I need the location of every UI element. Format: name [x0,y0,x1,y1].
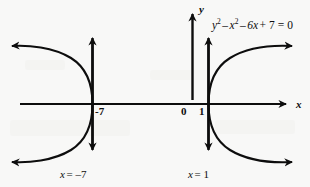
equation-annotation: y2–x2–6x+7=0 [212,20,295,32]
x-tick-label-1: 1 [199,106,205,117]
right-line-label: x=1 [188,169,211,180]
left-line-label-lhs: x [60,168,65,180]
equation-minus-1: – [222,19,228,31]
equation-plus: + [260,19,267,31]
x-tick-label-minus-7: -7 [95,106,104,117]
left-line-label-rhs: –7 [76,168,87,180]
equation-y-exponent: 2 [217,17,221,26]
hyperbola-figure: x y 0 -7 1 y2–x2–6x+7=0 x=–7 x=1 [0,0,310,187]
equation-constant: 7 [269,19,275,31]
right-line-label-rhs: 1 [204,168,210,180]
right-line-label-lhs: x [188,168,193,180]
equation-rhs: 0 [287,19,293,31]
equation-linear-term: 6x [247,19,258,31]
equation-minus-2: – [240,19,246,31]
right-line-label-equals: = [194,168,200,180]
left-line-label: x=–7 [60,169,88,180]
origin-label: 0 [181,106,187,117]
equation-x-exponent: 2 [235,17,239,26]
y-axis-label: y [199,4,204,15]
left-line-label-equals: = [66,168,72,180]
x-axis-label: x [296,99,302,110]
equation-equals: = [278,19,285,31]
